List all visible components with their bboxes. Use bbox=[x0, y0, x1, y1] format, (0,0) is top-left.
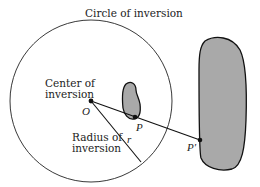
radius-symbol: r bbox=[127, 133, 132, 145]
point-p-prime-label: P′ bbox=[186, 141, 197, 153]
center-label-line2: inversion bbox=[45, 88, 94, 100]
point-p-prime bbox=[198, 138, 203, 143]
point-p bbox=[133, 115, 138, 120]
radius-label-line2: inversion bbox=[72, 142, 121, 154]
circle-of-inversion-label: Circle of inversion bbox=[85, 7, 183, 19]
inversion-diagram: Circle of inversion Center of inversion … bbox=[0, 0, 260, 187]
center-point-label: O bbox=[82, 105, 90, 117]
inverted-region bbox=[199, 38, 246, 170]
point-p-label: P bbox=[135, 121, 143, 133]
